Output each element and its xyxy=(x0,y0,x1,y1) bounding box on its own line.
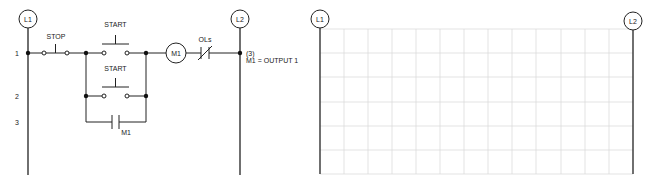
overload-label: OLs xyxy=(199,36,212,43)
l2-label: L2 xyxy=(236,16,244,23)
l1-label-right: L1 xyxy=(316,16,324,23)
stop-pushbutton-icon xyxy=(42,44,69,55)
rung-number-3: 3 xyxy=(15,119,19,126)
start-pushbutton-1-icon xyxy=(102,35,129,55)
output-assignment: M1 = OUTPUT 1 xyxy=(246,57,298,64)
ladder-diagram-right: L1 L2 xyxy=(311,10,642,174)
l2-label-right: L2 xyxy=(629,18,637,25)
ladder-diagram-left: L1 L2 1 2 3 STOP START xyxy=(15,10,298,175)
junction-dots xyxy=(26,51,242,98)
start-label-1: START xyxy=(104,21,127,28)
ladder-diagrams: L1 L2 1 2 3 STOP START xyxy=(0,0,658,189)
start-pushbutton-2-icon xyxy=(102,78,129,98)
coil-label: M1 xyxy=(171,50,181,57)
rung-number-2: 2 xyxy=(15,93,19,100)
stop-label: STOP xyxy=(47,33,66,40)
seal-contact-label: M1 xyxy=(121,129,131,136)
start-label-2: START xyxy=(104,65,127,72)
rung-number-1: 1 xyxy=(15,50,19,57)
ladder-grid xyxy=(320,29,633,174)
m1-seal-contact-icon xyxy=(112,115,119,129)
l1-label: L1 xyxy=(24,16,32,23)
